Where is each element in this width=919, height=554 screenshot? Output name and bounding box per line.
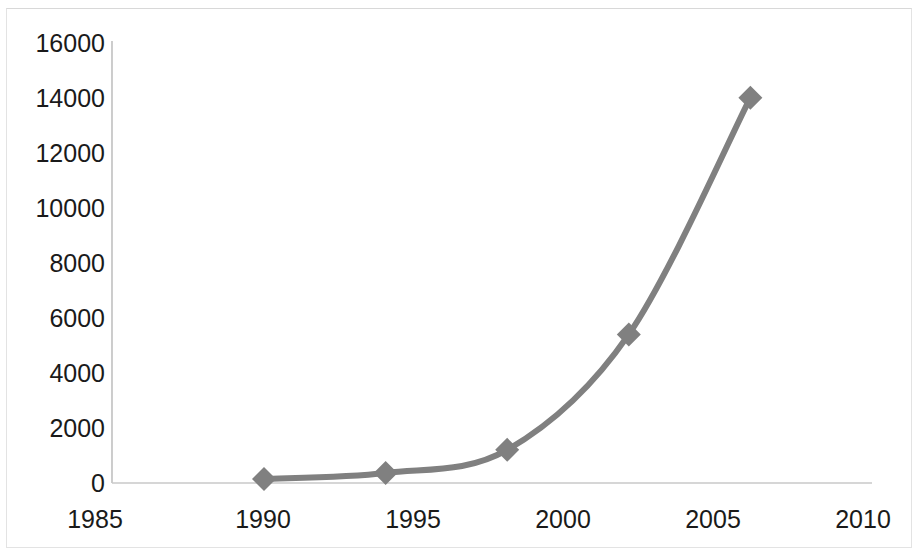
data-point-marker [374, 461, 398, 485]
axis-lines [112, 41, 872, 483]
chart-page: 16000 14000 12000 10000 8000 6000 4000 2… [0, 0, 919, 554]
plot-canvas [0, 0, 919, 554]
series-line [264, 98, 750, 479]
line-chart: 16000 14000 12000 10000 8000 6000 4000 2… [0, 0, 919, 554]
series-markers [252, 86, 762, 491]
data-point-marker [252, 467, 276, 491]
data-point-marker [738, 86, 762, 110]
data-series-group [252, 86, 762, 491]
